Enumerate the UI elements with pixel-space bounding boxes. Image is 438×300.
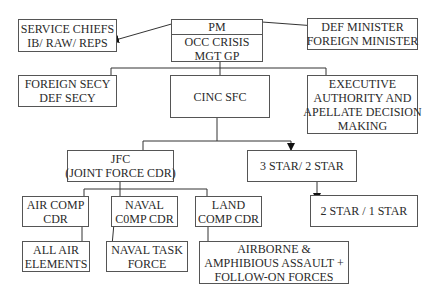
node-label: (JOINT FORCE CDR) (65, 166, 175, 180)
node-label: EXECUTIVE (329, 77, 396, 91)
node-label: JFC (111, 152, 130, 166)
node-three-star: 3 STAR/ 2 STAR (247, 150, 357, 182)
node-all-air-elements: ALL AIR ELEMENTS (22, 241, 90, 272)
node-label: DEF MINISTER (321, 20, 403, 34)
node-pm-occ-crisis: PM OCC CRISIS MGT GP (171, 19, 263, 62)
node-label: LAND (212, 198, 245, 212)
node-airborne-amphibious: AIRBORNE & AMPHIBIOUS ASSAULT + FOLLOW-O… (199, 241, 349, 284)
node-label: CDR (43, 212, 68, 226)
node-label: ALL AIR (33, 243, 79, 257)
node-executive-authority: EXECUTIVE AUTHORITY AND APELLATE DECISIO… (307, 75, 418, 134)
node-label: SERVICE CHIEFS (21, 22, 114, 36)
node-def-minister: DEF MINISTER FOREIGN MINISTER (307, 18, 418, 50)
node-label: AIRBORNE & (237, 242, 311, 256)
node-label: 3 STAR/ 2 STAR (260, 159, 344, 173)
node-land-comp-cdr: LAND COMP CDR (195, 196, 262, 227)
node-label: AIR COMP (27, 198, 85, 212)
node-label: C0MP CDR (115, 212, 174, 226)
node-cinc-sfc: CINC SFC (170, 75, 270, 118)
node-label: AMPHIBIOUS ASSAULT + (204, 256, 343, 270)
node-label: AUTHORITY AND (314, 91, 412, 105)
node-label: NAVAL (125, 198, 164, 212)
node-label: MGT GP (195, 49, 240, 63)
node-service-chiefs: SERVICE CHIEFS IB/ RAW/ REPS (18, 19, 117, 52)
node-label: FORCE (128, 257, 167, 271)
node-label: CINC SFC (193, 90, 246, 104)
node-label: APELLATE DECISION (303, 105, 421, 119)
node-label: COMP CDR (198, 212, 259, 226)
node-label: FOLLOW-ON FORCES (214, 270, 333, 284)
node-label: 2 STAR / 1 STAR (321, 204, 408, 218)
node-label: MAKING (338, 119, 387, 133)
node-label: IB/ RAW/ REPS (27, 36, 107, 50)
node-naval-task-force: NAVAL TASK FORCE (106, 241, 188, 272)
node-label: DEF SECY (39, 91, 95, 105)
node-foreign-secy: FOREIGN SECY DEF SECY (18, 75, 117, 107)
node-label: NAVAL TASK (111, 243, 183, 257)
node-label: FOREIGN MINISTER (307, 34, 419, 48)
node-naval-comp-cdr: NAVAL C0MP CDR (111, 196, 178, 227)
node-air-comp-cdr: AIR COMP CDR (22, 196, 89, 227)
node-two-star: 2 STAR / 1 STAR (310, 195, 418, 227)
node-jfc: JFC (JOINT FORCE CDR) (67, 150, 174, 182)
node-label: OCC CRISIS (184, 35, 249, 49)
node-label: ELEMENTS (25, 257, 88, 271)
node-label: PM (172, 20, 262, 35)
node-label: FOREIGN SECY (25, 77, 111, 91)
